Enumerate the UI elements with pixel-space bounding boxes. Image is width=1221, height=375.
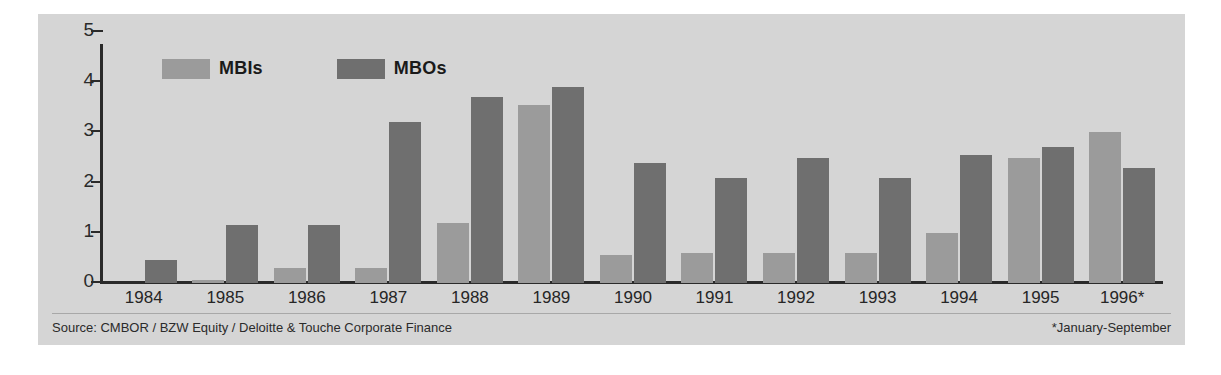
x-tick-label-1996: 1996* — [1081, 288, 1163, 308]
x-tick-label-1984: 1984 — [103, 288, 185, 308]
source-note: Source: CMBOR / BZW Equity / Deloitte & … — [52, 320, 452, 335]
x-tick-label-1994: 1994 — [918, 288, 1000, 308]
bar-mbos-1986 — [308, 225, 340, 283]
legend-item-mbis: MBIs — [162, 58, 263, 79]
bar-mbis-1992 — [763, 253, 795, 283]
bar-mbis-1991 — [681, 253, 713, 283]
bar-mbos-1996 — [1123, 168, 1155, 283]
y-tick-label-5: 5 — [68, 19, 94, 41]
y-tick-label-1: 1 — [68, 220, 94, 242]
bar-mbos-1995 — [1042, 147, 1074, 283]
bar-mbos-1988 — [471, 97, 503, 283]
bar-mbos-1989 — [552, 87, 584, 283]
bar-group-1990 — [592, 30, 674, 283]
bar-mbis-1986 — [274, 268, 306, 283]
x-tick-label-1991: 1991 — [674, 288, 756, 308]
legend-swatch-mbis-icon — [162, 59, 210, 79]
bar-mbis-1987 — [355, 268, 387, 283]
bar-group-1995 — [1000, 30, 1082, 283]
bar-mbis-1995 — [1008, 158, 1040, 284]
bar-group-1993 — [837, 30, 919, 283]
chart-footer: Source: CMBOR / BZW Equity / Deloitte & … — [52, 320, 1171, 335]
legend-label-mbis: MBIs — [219, 58, 263, 79]
bar-mbos-1990 — [634, 163, 666, 283]
legend-item-mbos: MBOs — [337, 58, 447, 79]
bar-mbis-1994 — [926, 233, 958, 283]
x-tick-label-1990: 1990 — [592, 288, 674, 308]
bar-group-1996 — [1081, 30, 1163, 283]
x-tick-label-1988: 1988 — [429, 288, 511, 308]
bar-mbos-1992 — [797, 158, 829, 284]
y-tick-label-2: 2 — [68, 170, 94, 192]
x-tick-label-1992: 1992 — [755, 288, 837, 308]
x-tick-label-1986: 1986 — [266, 288, 348, 308]
bar-mbos-1994 — [960, 155, 992, 283]
bar-mbis-1985 — [192, 280, 224, 284]
x-tick-label-1995: 1995 — [1000, 288, 1082, 308]
bar-mbos-1991 — [715, 178, 747, 283]
y-tick-label-4: 4 — [68, 69, 94, 91]
bar-mbos-1993 — [879, 178, 911, 283]
asterisk-note: *January-September — [1052, 320, 1171, 335]
chart-legend: MBIs MBOs — [162, 58, 447, 79]
bar-group-1992 — [755, 30, 837, 283]
footer-divider — [52, 313, 1171, 314]
x-tick-label-1985: 1985 — [185, 288, 267, 308]
y-tick-label-0: 0 — [68, 270, 94, 292]
bar-mbos-1987 — [389, 122, 421, 283]
chart-figure: 012345 198419851986198719881989199019911… — [38, 14, 1185, 345]
bar-group-1994 — [918, 30, 1000, 283]
bar-mbis-1996 — [1089, 132, 1121, 283]
legend-swatch-mbos-icon — [337, 59, 385, 79]
bar-mbis-1988 — [437, 223, 469, 283]
bar-mbis-1989 — [518, 105, 550, 283]
bar-mbos-1984 — [145, 260, 177, 283]
x-tick-label-1993: 1993 — [837, 288, 919, 308]
bar-mbis-1993 — [845, 253, 877, 283]
x-tick-label-1987: 1987 — [348, 288, 430, 308]
x-axis-labels: 1984198519861987198819891990199119921993… — [103, 288, 1163, 308]
bar-group-1989 — [511, 30, 593, 283]
legend-label-mbos: MBOs — [394, 58, 447, 79]
bar-mbos-1985 — [226, 225, 258, 283]
x-tick-label-1989: 1989 — [511, 288, 593, 308]
bar-group-1991 — [674, 30, 756, 283]
bar-mbis-1990 — [600, 255, 632, 283]
y-tick-label-3: 3 — [68, 119, 94, 141]
